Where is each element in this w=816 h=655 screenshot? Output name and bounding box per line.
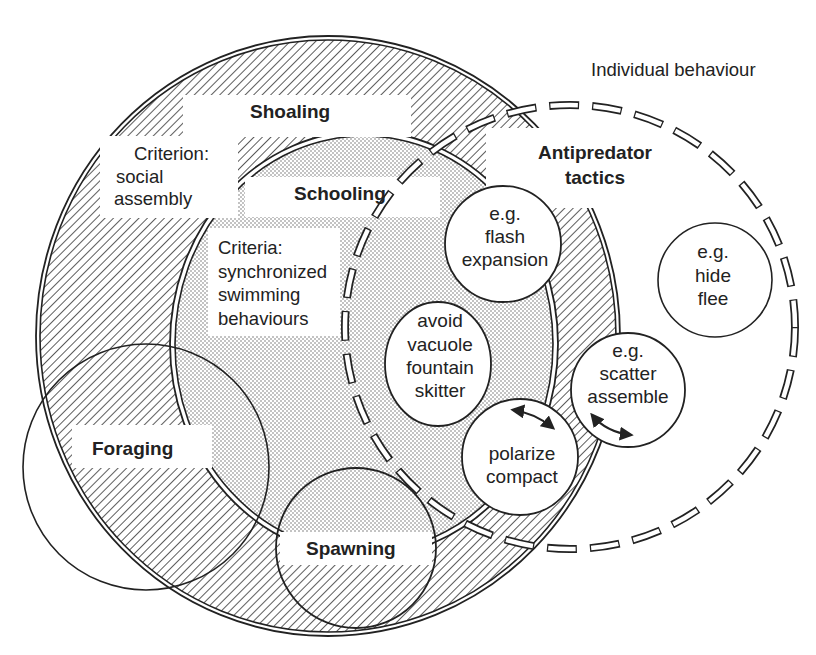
criterion-line-2: social	[116, 166, 163, 187]
avoid-line-2: vacuole	[407, 334, 473, 355]
venn-diagram: Individual behaviour Shoaling Criterion:…	[0, 0, 816, 655]
criteria-line-3: swimming	[218, 284, 300, 305]
criterion-line-1: Criterion:	[134, 143, 209, 164]
hide-line-3: flee	[698, 288, 729, 309]
polarize-line-2: compact	[486, 466, 559, 487]
diagram-title: Individual behaviour	[591, 59, 756, 80]
flash-line-2: flash	[485, 226, 525, 247]
flash-line-3: expansion	[462, 249, 549, 270]
shoaling-label: Shoaling	[250, 101, 330, 122]
schooling-label: Schooling	[294, 183, 386, 204]
spawning-label: Spawning	[306, 538, 396, 559]
scatter-line-2: scatter	[599, 363, 657, 384]
antipredator-label-line-1: Antipredator	[538, 142, 653, 163]
hide-line-2: hide	[695, 265, 731, 286]
criterion-line-3: assembly	[114, 188, 193, 209]
scatter-line-1: e.g.	[612, 340, 644, 361]
avoid-line-3: fountain	[406, 357, 474, 378]
scatter-line-3: assemble	[587, 386, 668, 407]
avoid-line-1: avoid	[417, 310, 462, 331]
foraging-label: Foraging	[92, 438, 173, 459]
avoid-line-4: skitter	[415, 380, 466, 401]
criteria-line-2: synchronized	[218, 261, 327, 282]
antipredator-label-line-2: tactics	[565, 167, 625, 188]
flash-line-1: e.g.	[489, 203, 521, 224]
criteria-line-1: Criteria:	[218, 237, 283, 258]
criteria-line-4: behaviours	[218, 308, 309, 329]
polarize-line-1: polarize	[489, 443, 556, 464]
hide-line-1: e.g.	[697, 241, 729, 262]
